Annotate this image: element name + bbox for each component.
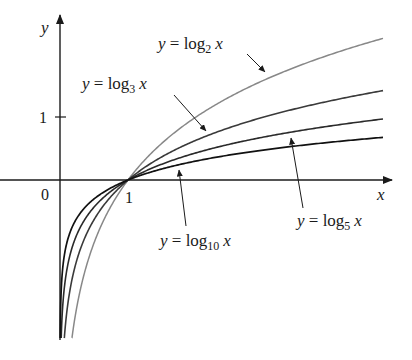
log-curves-chart: y x 0 1 1 y = log2x y = log3x y = log5x … <box>0 0 412 360</box>
origin-label: 0 <box>41 186 49 203</box>
curve-log10 <box>60 137 383 338</box>
arrow-log2 <box>247 54 265 72</box>
label-log5: y = log5x <box>295 211 362 233</box>
y-axis-label: y <box>39 18 49 37</box>
arrow-log10 <box>179 170 186 226</box>
label-log10: y = log10x <box>158 231 231 253</box>
y-tick-1-label: 1 <box>39 109 47 126</box>
x-axis-label: x <box>376 185 385 204</box>
x-tick-1-label: 1 <box>125 189 133 206</box>
label-log2: y = log2x <box>156 34 223 56</box>
label-log3: y = log3x <box>80 74 147 96</box>
arrow-log5 <box>291 138 303 208</box>
